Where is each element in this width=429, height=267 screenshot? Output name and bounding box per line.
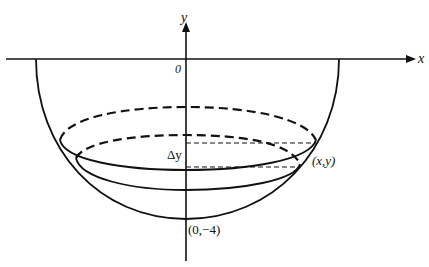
point-label: (x,y) — [312, 153, 335, 168]
bowl-diagram: y x 0 Δy (x,y) (0,−4) — [0, 0, 429, 267]
bowl-outline — [36, 59, 339, 219]
bottom-point-label: (0,−4) — [188, 222, 220, 237]
upper-ellipse-front — [60, 140, 316, 170]
lower-ellipse-back — [76, 135, 300, 164]
lower-ellipse-front — [76, 158, 300, 190]
x-axis-label: x — [417, 51, 425, 66]
origin-label: 0 — [175, 62, 181, 76]
y-axis-label: y — [179, 10, 188, 25]
delta-y-label: Δy — [167, 147, 182, 162]
